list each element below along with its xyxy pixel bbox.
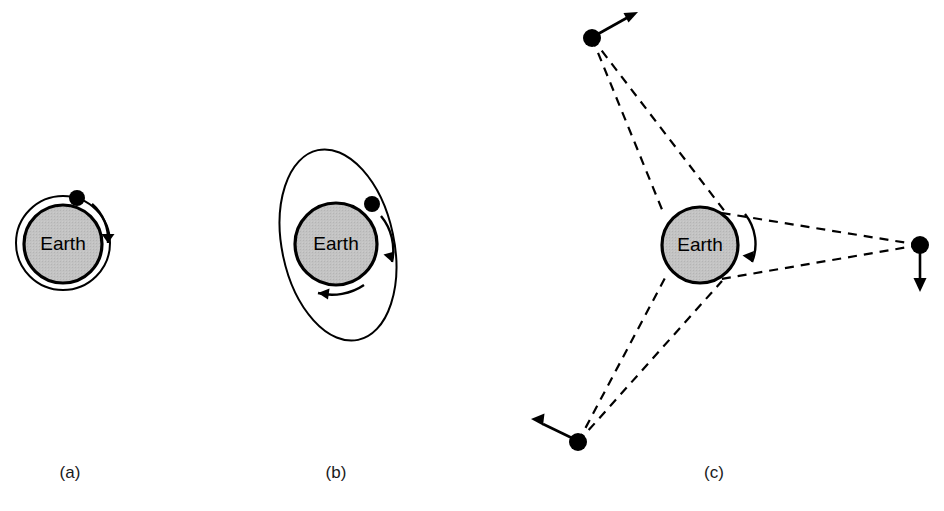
satellite-dot-b — [364, 196, 380, 212]
sight-line-bottom-right — [578, 278, 665, 442]
earth-rotation-arrowhead-c — [743, 251, 755, 262]
sight-line-right-lower — [721, 245, 920, 279]
caption-panel-c: (c) — [704, 463, 724, 482]
figure-canvas: Earth Earth — [0, 0, 944, 511]
caption-panel-b: (b) — [326, 463, 347, 482]
earth-label-a: Earth — [40, 233, 85, 254]
sight-line-right-upper — [722, 213, 920, 245]
panel-a: Earth — [16, 190, 115, 290]
satellite-dot-right — [911, 236, 929, 254]
sight-line-top-right — [592, 38, 726, 213]
sight-line-bottom-left — [578, 281, 722, 442]
earth-rotation-arrowhead-b — [318, 289, 330, 300]
orbit-diagram-figure: Earth Earth — [0, 0, 944, 511]
satellite-dot-bottom-left — [569, 433, 587, 451]
earth-label-b: Earth — [313, 233, 358, 254]
earth-label-c: Earth — [677, 234, 722, 255]
satellite-dot-a — [69, 190, 85, 206]
velocity-arrowhead-bottom-left — [531, 414, 545, 426]
sight-line-top-left — [592, 38, 663, 212]
velocity-vector-bottom-left — [543, 424, 572, 438]
panel-c: Earth — [531, 12, 929, 451]
velocity-arrowhead-right — [914, 278, 927, 292]
satellite-dot-top — [583, 29, 601, 47]
caption-panel-a: (a) — [60, 463, 81, 482]
panel-b: Earth — [263, 138, 413, 351]
